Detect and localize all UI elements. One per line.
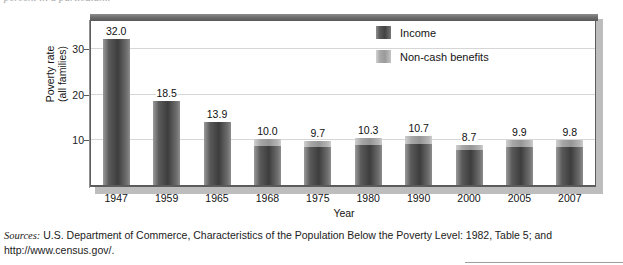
sources-lead: Sources: <box>4 230 40 241</box>
x-axis-tick-labels: 1947195919651968197519801990200020052007 <box>90 192 598 208</box>
legend-item-income[interactable]: Income <box>376 23 526 42</box>
x-tick-label-2007: 2007 <box>558 192 581 204</box>
x-tick-label-1965: 1965 <box>205 192 228 204</box>
bottom-divider <box>465 262 623 263</box>
bar-segment-income-1980 <box>355 145 382 185</box>
sources-text: U.S. Department of Commerce, Characteris… <box>4 229 552 256</box>
y-axis-title-line1: Poverty rate <box>44 14 56 134</box>
bar-segment-noncash-2005 <box>506 140 533 147</box>
bar-1965[interactable] <box>204 122 231 185</box>
x-tick-label-1990: 1990 <box>407 192 430 204</box>
x-tick-label-1980: 1980 <box>357 192 380 204</box>
bar-1975[interactable] <box>304 141 331 185</box>
sources-note: Sources: U.S. Department of Commerce, Ch… <box>4 228 614 258</box>
x-tick-label-2000: 2000 <box>457 192 480 204</box>
legend-swatch-income <box>376 26 391 39</box>
legend-label-noncash-benefits: Non-cash benefits <box>400 51 489 63</box>
bar-1968[interactable] <box>254 139 281 185</box>
figure-top-band <box>90 14 598 21</box>
bar-segment-income-1959 <box>153 101 180 185</box>
chart-legend: Income Non-cash benefits <box>376 23 526 71</box>
x-tick-label-1968: 1968 <box>256 192 279 204</box>
bar-segment-income-2000 <box>456 150 483 185</box>
bar-segment-income-1965 <box>204 122 231 185</box>
legend-swatch-noncash-benefits <box>376 50 391 63</box>
cutoff-body-text: percent in a particular... <box>0 0 623 9</box>
bar-value-label-1959: 18.5 <box>155 87 177 99</box>
y-axis-title-line2: (all families) <box>56 14 68 134</box>
legend-label-income: Income <box>400 27 436 39</box>
bar-segment-income-2005 <box>506 147 533 185</box>
bar-segment-noncash-1980 <box>355 138 382 145</box>
bar-segment-income-1990 <box>405 144 432 185</box>
y-tick-label-20: 20 <box>72 89 84 101</box>
y-tick-label-30: 30 <box>72 43 84 55</box>
bar-value-label-2005: 9.9 <box>511 126 528 138</box>
x-tick-label-1975: 1975 <box>306 192 329 204</box>
bar-value-label-1968: 10.0 <box>256 125 278 137</box>
bar-segment-income-1947 <box>103 39 130 185</box>
bar-1980[interactable] <box>355 138 382 185</box>
bar-1959[interactable] <box>153 101 180 185</box>
bar-2000[interactable] <box>456 145 483 185</box>
x-axis-title: Year <box>90 207 598 219</box>
x-tick-label-1959: 1959 <box>155 192 178 204</box>
bar-value-label-1965: 13.9 <box>206 108 228 120</box>
legend-item-noncash-benefits[interactable]: Non-cash benefits <box>376 47 526 66</box>
bar-1947[interactable] <box>103 39 130 185</box>
chart-figure: 32.018.513.910.09.710.310.78.79.99.8 Inc… <box>90 14 598 189</box>
y-axis-title: Poverty rate (all families) <box>44 14 68 134</box>
bar-segment-income-2007 <box>556 147 583 185</box>
bar-2007[interactable] <box>556 140 583 185</box>
y-tick-mark-10 <box>84 140 89 141</box>
bar-value-label-1947: 32.0 <box>105 25 127 37</box>
x-tick-label-2005: 2005 <box>508 192 531 204</box>
bar-segment-noncash-1990 <box>405 136 432 144</box>
bar-1990[interactable] <box>405 136 432 185</box>
bar-value-label-1990: 10.7 <box>407 122 429 134</box>
x-tick-label-1947: 1947 <box>105 192 128 204</box>
bar-value-label-2007: 9.8 <box>561 126 578 138</box>
bar-segment-income-1975 <box>304 147 331 185</box>
y-tick-label-10: 10 <box>72 134 84 146</box>
bar-value-label-2000: 8.7 <box>461 131 478 143</box>
bar-segment-income-1968 <box>254 146 281 185</box>
bar-segment-noncash-2007 <box>556 140 583 147</box>
bar-value-label-1980: 10.3 <box>357 124 379 136</box>
bar-value-label-1975: 9.7 <box>309 127 326 139</box>
cutoff-body-text-label: percent in a particular... <box>4 0 111 3</box>
bar-2005[interactable] <box>506 140 533 185</box>
y-tick-mark-30 <box>84 49 89 50</box>
y-axis-spine <box>89 20 90 188</box>
y-tick-mark-20 <box>84 95 89 96</box>
